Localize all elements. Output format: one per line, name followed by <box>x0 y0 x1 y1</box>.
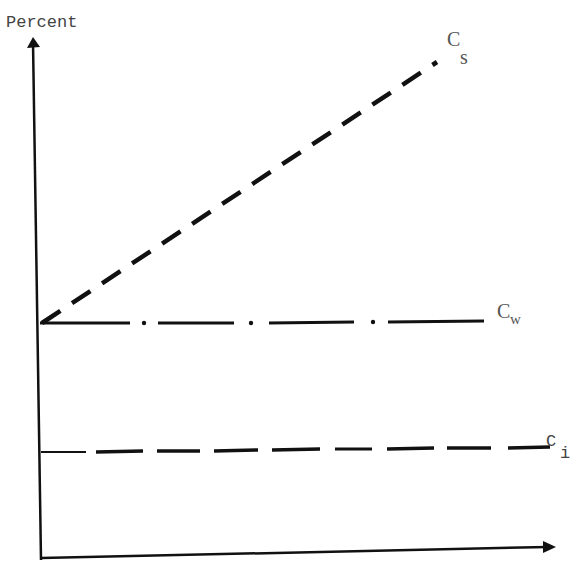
y-axis-label: Percent <box>6 13 77 32</box>
ci-label-main: C <box>546 432 556 451</box>
cw-line <box>40 320 484 325</box>
y-axis <box>27 37 41 560</box>
cs-label-main: C <box>447 28 460 50</box>
cs-label-sub: s <box>460 46 468 68</box>
cs-line <box>42 62 437 323</box>
y-axis-arrow-icon <box>27 37 40 48</box>
ci-line <box>41 447 550 452</box>
diagram-canvas: Percent C s C w C i <box>0 0 580 585</box>
cw-label-sub: w <box>510 311 521 327</box>
x-axis-arrow-icon <box>543 541 556 553</box>
cw-label-main: C <box>497 300 510 322</box>
x-axis <box>41 541 556 558</box>
ci-label-sub: i <box>560 444 570 463</box>
